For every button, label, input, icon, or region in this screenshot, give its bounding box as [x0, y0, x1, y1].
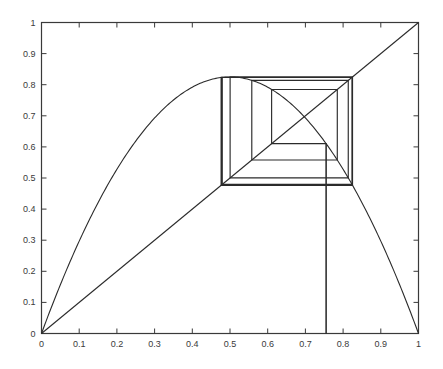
y-tick-label: 0 [30, 329, 35, 338]
y-tick-label: 0.6 [23, 142, 36, 151]
y-tick-label: 0.1 [23, 298, 36, 307]
y-tick-label: 0.8 [23, 80, 36, 89]
y-tick-label: 0.3 [23, 236, 36, 245]
y-tick-label: 0.5 [23, 174, 36, 183]
y-tick-label: 0.2 [23, 267, 36, 276]
y-tick-label: 0.4 [23, 205, 36, 214]
x-tick-label: 0.8 [337, 340, 350, 349]
y-tick-label: 1 [30, 18, 35, 27]
x-tick-label: 0.1 [73, 340, 86, 349]
x-tick-label: 0 [39, 340, 44, 349]
x-tick-label: 0.2 [111, 340, 124, 349]
x-tick-label: 0.6 [261, 340, 274, 349]
x-tick-label: 0.5 [224, 340, 237, 349]
x-tick-label: 0.3 [148, 340, 161, 349]
cobweb-plot-figure: 00.10.20.30.40.50.60.70.80.91 00.10.20.3… [0, 0, 443, 369]
y-tick-label: 0.9 [23, 49, 36, 58]
x-tick-label: 0.4 [186, 340, 199, 349]
plot-canvas [0, 0, 443, 369]
x-tick-label: 0.7 [299, 340, 312, 349]
x-tick-label: 0.9 [375, 340, 388, 349]
cobweb-orbit [221, 77, 352, 334]
x-tick-label: 1 [416, 340, 421, 349]
y-tick-label: 0.7 [23, 111, 36, 120]
